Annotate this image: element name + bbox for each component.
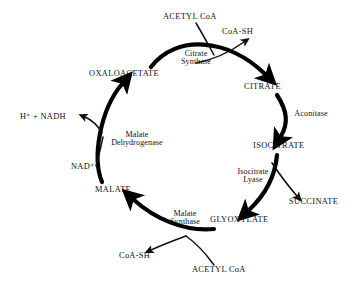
enzyme-label-malate-synthase: Malate Synthase bbox=[157, 210, 213, 227]
cofactor-label-coa-sh-bottom: CoA-SH bbox=[119, 252, 150, 261]
arrow-coa-sh-bottom-out bbox=[151, 236, 186, 250]
cofactor-label-acetyl-coa-top: ACETYL CoA bbox=[163, 13, 217, 22]
metabolite-label-malate: MALATE bbox=[95, 186, 131, 195]
enzyme-label-isocitrate-lyase-line2: Lyase bbox=[225, 176, 281, 184]
metabolite-label-isocitrate: ISOCITRATE bbox=[253, 142, 304, 151]
cofactor-label-nad-plus: NAD⁺ bbox=[71, 163, 94, 172]
enzyme-label-aconitase-line1: Aconitase bbox=[288, 110, 334, 118]
enzyme-label-malate-dehydrogenase: Malate Dehydrogenase bbox=[100, 131, 174, 148]
metabolite-label-glyoxylate: GLYOXYLATE bbox=[210, 216, 268, 225]
arrow-acetyl-coa-bottom-in bbox=[186, 236, 214, 265]
metabolite-label-succinate: SUCCINATE bbox=[289, 198, 338, 207]
arrow-citrate-to-isocitrate bbox=[277, 95, 286, 136]
enzyme-label-malate-synthase-line2: Synthase bbox=[157, 218, 213, 226]
enzyme-label-aconitase: Aconitase bbox=[288, 110, 334, 118]
metabolite-label-oxaloacetate: OXALOACETATE bbox=[89, 70, 159, 79]
metabolite-label-citrate: CITRATE bbox=[244, 83, 281, 92]
enzyme-label-citrate-synthase-line2: Synthase bbox=[166, 58, 226, 66]
cofactor-label-h-nadh: H⁺ + NADH bbox=[20, 113, 66, 122]
enzyme-label-isocitrate-lyase: Isocitrate Lyase bbox=[225, 168, 281, 185]
cofactor-label-acetyl-coa-bottom: ACETYL CoA bbox=[192, 266, 246, 275]
cofactor-label-coa-sh-top: CoA-SH bbox=[222, 28, 253, 37]
enzyme-label-malate-dehydrogenase-line2: Dehydrogenase bbox=[100, 139, 174, 147]
enzyme-label-citrate-synthase: Citrate Synthase bbox=[166, 50, 226, 67]
